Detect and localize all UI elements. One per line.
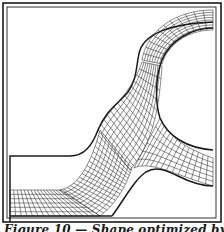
lower-right-boundary xyxy=(112,169,213,216)
shape-boundaries xyxy=(10,22,213,222)
left-channel-boundary xyxy=(10,22,213,222)
figure-caption: Figure 10 — Shape optimized by finite xyxy=(4,224,224,232)
mesh-lines xyxy=(10,10,213,216)
fem-mesh-figure xyxy=(0,0,224,232)
